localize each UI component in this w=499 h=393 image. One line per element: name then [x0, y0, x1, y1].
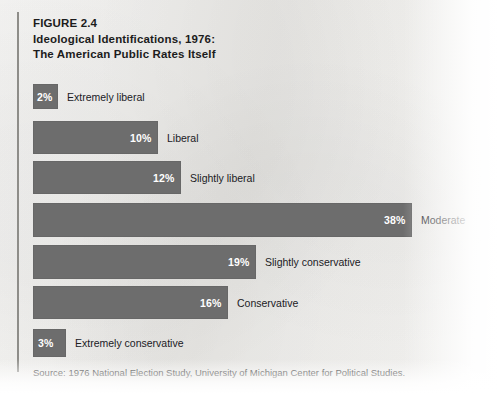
bar-category-label: Extremely conservative	[75, 338, 184, 349]
bar-value-label: 12%	[153, 173, 174, 184]
bar-value-label: 19%	[228, 257, 249, 268]
bar-chart: 2%Extremely liberal10%Liberal12%Slightly…	[0, 0, 499, 393]
bar	[33, 203, 412, 237]
source-note: Source: 1976 National Election Study, Un…	[33, 367, 405, 379]
bar-value-label: 2%	[37, 92, 52, 103]
bar-value-label: 38%	[384, 215, 405, 226]
bar	[33, 245, 256, 279]
bar-value-label: 16%	[200, 298, 221, 309]
bar-value-label: 3%	[38, 338, 53, 349]
bar	[33, 286, 228, 319]
figure-panel: FIGURE 2.4 Ideological Identifications, …	[0, 0, 499, 393]
bar-category-label: Slightly liberal	[190, 173, 255, 184]
bar-category-label: Slightly conservative	[265, 257, 361, 268]
bar-category-label: Extremely liberal	[67, 92, 145, 103]
bar-category-label: Liberal	[167, 133, 199, 144]
bar-value-label: 10%	[130, 133, 151, 144]
bar-category-label: Moderate	[421, 215, 465, 226]
bar-category-label: Conservative	[237, 298, 298, 309]
